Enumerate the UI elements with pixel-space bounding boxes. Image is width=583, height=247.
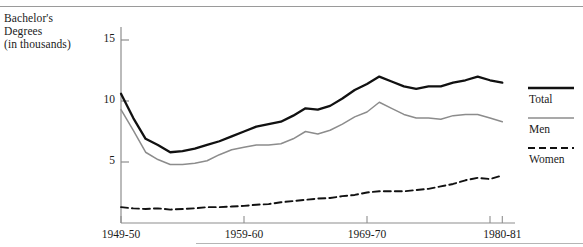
legend-swatch-women-icon [528, 144, 574, 152]
chart-legend: TotalMenWomen [528, 84, 583, 174]
plot-svg [0, 0, 583, 247]
y-tick-label-1: 10 [89, 93, 115, 105]
legend-entry-men: Men [528, 114, 583, 135]
x-tick-label-0: 1949-50 [102, 228, 140, 240]
legend-swatch-men-icon [528, 114, 574, 122]
x-tick-label-1: 1959-60 [225, 228, 263, 240]
legend-swatch-total-icon [528, 84, 574, 92]
x-tick-label-2: 1969-70 [348, 228, 386, 240]
y-tick-label-2: 15 [89, 32, 115, 44]
legend-label-men: Men [528, 122, 583, 135]
series-line-women [121, 175, 502, 209]
y-tick-label-0: 5 [89, 154, 115, 166]
legend-entry-women: Women [528, 144, 583, 165]
x-tick-label-3: 1980-81 [483, 228, 521, 240]
series-line-men [121, 102, 502, 164]
legend-label-total: Total [528, 92, 583, 105]
plot-area [0, 0, 583, 247]
series-line-total [121, 77, 502, 153]
legend-entry-total: Total [528, 84, 583, 105]
legend-label-women: Women [528, 152, 583, 165]
chart-page: Bachelor's Degrees (in thousands) 51015 … [0, 0, 583, 247]
